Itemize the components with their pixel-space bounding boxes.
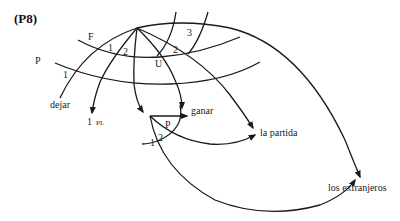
sub-label-p: P: [165, 119, 171, 130]
stratum-label-f: F: [88, 31, 94, 42]
relation-label-2-outer: 2: [173, 44, 178, 55]
stratum-label-u: U: [155, 58, 163, 69]
arc-outer-top: [60, 23, 360, 177]
relation-label-1-inner: 1: [108, 42, 113, 53]
terminal-1pl-num: 1: [87, 116, 92, 127]
sub-label-1: 1: [150, 137, 155, 148]
terminal-1pl-suffix: PL: [96, 119, 104, 127]
relation-label-2-inner: 2: [123, 46, 128, 57]
relation-label-1-outer: 1: [63, 69, 68, 80]
terminal-dejar: dejar: [50, 99, 71, 110]
terminal-la-partida: la partida: [260, 127, 298, 138]
figure-label: (P8): [14, 11, 37, 26]
relational-network-diagram: (P8) P F U 1 1 2 2 3 P 1 2 dejar 1 PL ga…: [0, 0, 400, 221]
terminal-los-extranjeros: los extranjeros: [328, 182, 387, 193]
stratum-label-p: P: [35, 55, 41, 66]
arc-1-to-1pl: [92, 28, 137, 113]
sub-label-2: 2: [158, 132, 163, 143]
terminal-ganar: ganar: [191, 105, 214, 116]
relation-label-3: 3: [187, 27, 192, 38]
sub-arc-to-los-extranjeros: [150, 116, 355, 211]
arc-2-to-sub: [134, 28, 143, 112]
